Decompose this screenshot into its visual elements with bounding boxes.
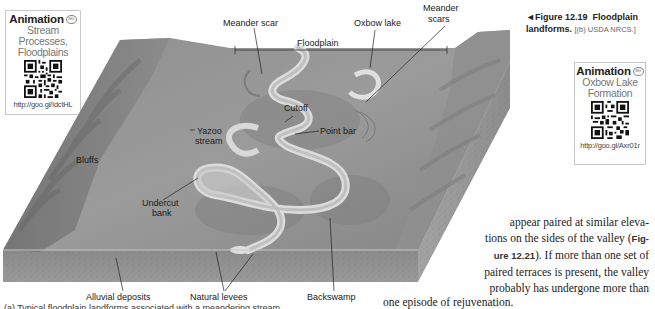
body-paragraph: appear paired at similar eleva- tions on…: [385, 214, 649, 296]
label-yazoo-2: stream: [195, 136, 223, 146]
label-cutoff: Cutoff: [284, 103, 308, 113]
body-line: appear paired at similar eleva-: [385, 214, 649, 230]
label-natural-levees: Natural levees: [190, 292, 248, 302]
body-line: tions on the sides of the valley (Fig-: [385, 230, 649, 247]
label-alluvial-deposits: Alluvial deposits: [86, 292, 151, 302]
label-floodplain: Floodplain: [297, 38, 339, 48]
label-undercut-1: Undercut: [142, 198, 179, 208]
body-line-last: one episode of rejuvenation.: [383, 294, 653, 309]
label-bluffs: Bluffs: [76, 155, 98, 165]
body-line: paired terraces is present, the valley: [385, 264, 649, 280]
label-point-bar: Point bar: [320, 126, 356, 136]
subfigure-caption: (a) Typical floodplain landforms associa…: [4, 303, 282, 309]
label-meander-scar: Meander scar: [223, 18, 278, 28]
label-backswamp: Backswamp: [307, 292, 356, 302]
body-line: ure 12.21). If more than one set of: [385, 247, 649, 264]
label-oxbow-lake: Oxbow lake: [354, 18, 401, 28]
figure-reference-link[interactable]: Fig-: [632, 233, 649, 244]
label-meander-scars-1: Meander: [423, 3, 459, 13]
figure-reference-link[interactable]: ure 12.21: [494, 250, 535, 261]
label-yazoo-1: Yazoo: [197, 126, 222, 136]
label-undercut-2: bank: [152, 208, 172, 218]
label-meander-scars-2: scars: [428, 14, 450, 24]
